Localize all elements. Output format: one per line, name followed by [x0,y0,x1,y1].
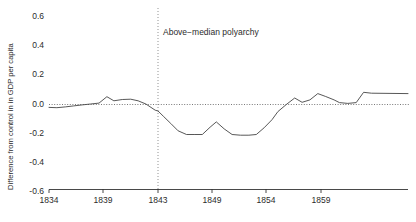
chart-container: 0.6 0.4 0.2 0.0 -0.2 -0.4 -0.6 Differenc… [0,0,416,222]
y-tick-label: 0.6 [32,11,44,21]
x-tick-label: 1839 [94,195,113,205]
series-line-difference-from-control [49,92,408,135]
y-tick-label: 0.4 [32,40,44,50]
x-axis-tick-labels: 1834 1839 1843 1849 1854 1859 [40,195,331,205]
y-tick-label: 0.2 [32,69,44,79]
y-axis-title-group: Difference from control in in GDP per ca… [6,43,15,190]
x-axis-tick-marks [49,190,321,194]
x-tick-label: 1834 [40,195,59,205]
x-tick-label: 1849 [203,195,222,205]
y-tick-label: -0.4 [29,157,44,167]
line-chart: 0.6 0.4 0.2 0.0 -0.2 -0.4 -0.6 Differenc… [0,0,416,222]
y-axis-title: Difference from control in in GDP per ca… [6,43,15,190]
y-tick-label: -0.2 [29,128,44,138]
y-axis-tick-labels: 0.6 0.4 0.2 0.0 -0.2 -0.4 -0.6 [29,11,44,196]
above-median-polyarchy-annotation: Above−median polyarchy [163,27,259,37]
x-tick-label: 1843 [149,195,168,205]
y-tick-label: -0.6 [29,186,44,196]
x-tick-label: 1854 [257,195,276,205]
y-tick-label: 0.0 [32,99,44,109]
annotation-group: Above−median polyarchy [163,27,259,37]
x-tick-label: 1859 [312,195,331,205]
